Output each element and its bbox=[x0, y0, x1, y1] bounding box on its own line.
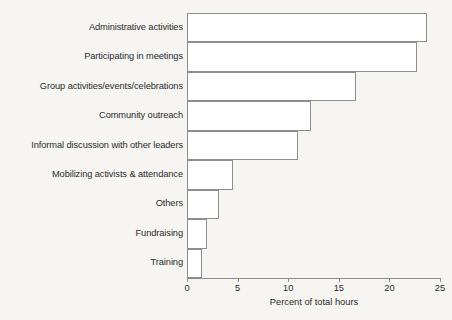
x-axis-title: Percent of total hours bbox=[187, 297, 441, 307]
category-label: Mobilizing activists & attendance bbox=[0, 169, 183, 180]
category-label: Informal discussion with other leaders bbox=[0, 140, 183, 151]
bar-row bbox=[187, 131, 440, 160]
axis-tick-label: 5 bbox=[235, 283, 240, 293]
bar-row bbox=[187, 72, 440, 101]
bar-row bbox=[187, 42, 440, 71]
axis-tick bbox=[389, 278, 390, 282]
category-label: Community outreach bbox=[0, 110, 183, 121]
bar-row bbox=[187, 249, 440, 278]
bar bbox=[187, 13, 427, 42]
axis-tick bbox=[238, 278, 239, 282]
bar-row bbox=[187, 219, 440, 248]
axis-tick-label: 15 bbox=[334, 283, 344, 293]
plot-area bbox=[187, 13, 440, 278]
category-label: Administrative activities bbox=[0, 22, 183, 33]
bar bbox=[187, 190, 219, 219]
category-label: Training bbox=[0, 257, 183, 268]
axis-tick-label: 25 bbox=[435, 283, 445, 293]
category-axis-line bbox=[187, 13, 188, 279]
axis-tick bbox=[187, 278, 188, 282]
bar bbox=[187, 249, 202, 278]
bar bbox=[187, 101, 311, 130]
category-label: Participating in meetings bbox=[0, 51, 183, 62]
bar bbox=[187, 219, 207, 248]
category-axis-labels: Administrative activitiesParticipating i… bbox=[0, 13, 183, 278]
axis-tick-label: 0 bbox=[184, 283, 189, 293]
axis-tick bbox=[339, 278, 340, 282]
value-axis-line bbox=[187, 278, 441, 279]
bar bbox=[187, 131, 298, 160]
axis-tick-label: 10 bbox=[283, 283, 293, 293]
bar-row bbox=[187, 101, 440, 130]
axis-tick bbox=[288, 278, 289, 282]
category-label: Fundraising bbox=[0, 228, 183, 239]
bar bbox=[187, 42, 417, 71]
bar-row bbox=[187, 160, 440, 189]
bar bbox=[187, 72, 356, 101]
bar bbox=[187, 160, 233, 189]
bar-row bbox=[187, 190, 440, 219]
category-label: Group activities/events/celebrations bbox=[0, 81, 183, 92]
category-label: Others bbox=[0, 198, 183, 209]
bar-chart: Administrative activitiesParticipating i… bbox=[0, 0, 452, 320]
axis-tick bbox=[440, 278, 441, 282]
bar-row bbox=[187, 13, 440, 42]
axis-tick-label: 20 bbox=[384, 283, 394, 293]
